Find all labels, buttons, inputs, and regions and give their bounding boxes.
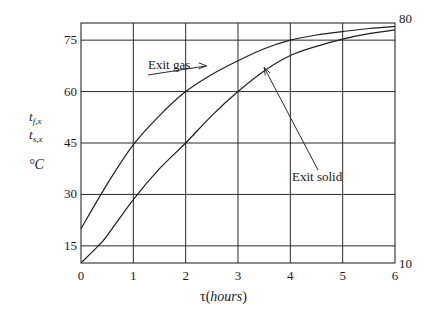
y-tick-label-right: 10 [399,256,412,271]
arrowhead-icon [199,63,207,69]
x-tick-label: 2 [182,268,189,283]
x-axis-label: τ(hours) [200,289,247,305]
y-axis-label: tf,x ts,x °C [29,110,44,172]
x-tick-label: 1 [130,268,137,283]
y-tick-label: 45 [64,135,77,150]
y-tick-label: 30 [64,186,77,201]
x-tick-label: 4 [287,268,294,283]
annotations: Exit gasExit solid [148,57,343,184]
y-label-ts: ts,x [29,128,44,146]
y-tick-label-right: 80 [399,11,412,26]
x-tick-label: 6 [392,268,399,283]
y-label-tf: tf,x [29,110,44,128]
y-tick-label: 60 [64,84,77,99]
line-chart: 012345615304560751080 Exit gasExit solid [0,0,429,323]
x-tick-label: 5 [339,268,346,283]
y-tick-label: 15 [64,238,77,253]
y-tick-label: 75 [64,32,77,47]
grid-lines [81,23,395,263]
exit-solid-arrow [264,68,318,170]
x-tick-label: 0 [78,268,85,283]
exit-solid-label: Exit solid [292,169,343,184]
y-label-unit: °C [29,158,44,172]
x-tick-label: 3 [235,268,242,283]
